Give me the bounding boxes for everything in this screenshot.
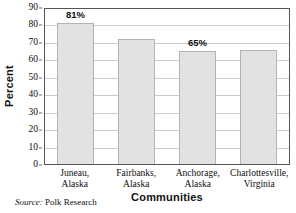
- x-axis-tick-label: Fairbanks,Alaska: [106, 168, 168, 190]
- x-axis-tick-label-line: Fairbanks,: [116, 168, 156, 178]
- x-axis-tick-label-line: Alaska: [44, 179, 106, 190]
- y-axis-tick-label: 10: [29, 143, 39, 153]
- x-axis-tick-label-line: Alaska: [106, 179, 168, 190]
- bar-slot: [106, 9, 167, 164]
- y-axis-tick-mark: [39, 77, 42, 78]
- y-axis-tick-label: 20: [29, 125, 39, 135]
- bar-slot: [228, 9, 289, 164]
- y-axis-title: Percent: [2, 46, 16, 126]
- source-note: Source: Polk Research: [15, 197, 97, 207]
- x-axis-tick-label-line: Anchorage,: [176, 168, 220, 178]
- y-axis-tick-mark: [39, 25, 42, 26]
- y-axis-title-text: Percent: [3, 65, 15, 107]
- y-axis-tick-mark: [39, 165, 42, 166]
- y-axis-tick-labels: 9080706050403020100: [20, 8, 41, 165]
- bar[interactable]: [179, 51, 217, 164]
- y-axis-tick-label: 80: [29, 21, 39, 31]
- x-axis-tick-label-line: Juneau,: [60, 168, 89, 178]
- bar-value-label: 65%: [188, 38, 207, 48]
- bar[interactable]: [240, 50, 278, 164]
- x-axis-tick-label-line: Virginia: [229, 179, 291, 190]
- x-axis-tick-labels: Juneau,AlaskaFairbanks,AlaskaAnchorage,A…: [44, 168, 290, 190]
- bar[interactable]: [57, 23, 95, 164]
- y-axis-tick-mark: [39, 42, 42, 43]
- y-axis-tick-label: 90: [29, 3, 39, 13]
- y-axis-tick-label: 40: [29, 90, 39, 100]
- y-axis-tick-label: 70: [29, 38, 39, 48]
- bar-slot: 81%: [45, 9, 106, 164]
- y-axis-tick-mark: [39, 130, 42, 131]
- y-axis-tick-mark: [39, 95, 42, 96]
- bar-series: 81%65%: [45, 9, 289, 164]
- x-axis-tick-label: Charlottesville,Virginia: [229, 168, 291, 190]
- y-axis-tick-label: 0: [33, 160, 38, 170]
- x-axis-tick-label-line: Charlottesville,: [230, 168, 288, 178]
- bar-chart-figure: Percent 9080706050403020100 81%65% Junea…: [0, 0, 296, 213]
- x-axis-tick-label: Anchorage,Alaska: [167, 168, 229, 190]
- bar-slot: 65%: [167, 9, 228, 164]
- y-axis-tick-mark: [39, 60, 42, 61]
- y-axis-tick-mark: [39, 112, 42, 113]
- source-note-value: Polk Research: [45, 197, 97, 207]
- plot-area: 81%65%: [44, 8, 290, 165]
- y-axis-tick-mark: [39, 147, 42, 148]
- y-axis-tick-label: 30: [29, 108, 39, 118]
- x-axis-tick-label: Juneau,Alaska: [44, 168, 106, 190]
- source-note-key: Source:: [15, 197, 43, 207]
- y-axis-tick-label: 60: [29, 56, 39, 66]
- bar-value-label: 81%: [66, 10, 85, 20]
- x-axis-tick-label-line: Alaska: [167, 179, 229, 190]
- bar[interactable]: [118, 39, 156, 164]
- y-axis-tick-mark: [39, 8, 42, 9]
- y-axis-tick-label: 50: [29, 73, 39, 83]
